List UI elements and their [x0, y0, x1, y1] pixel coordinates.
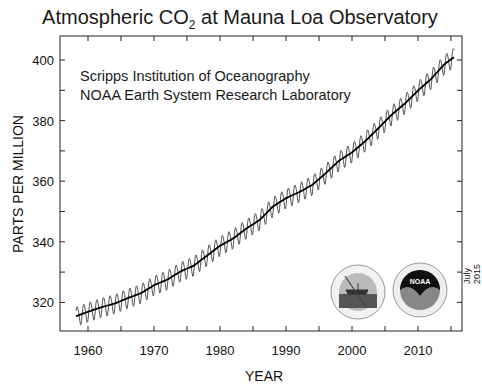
noaa-text: NOAA	[410, 278, 431, 285]
y-tick-label: 400	[32, 53, 54, 68]
x-tick-label: 1990	[272, 343, 301, 358]
x-tick-label: 2000	[338, 343, 367, 358]
date-note: July 2015	[462, 264, 482, 284]
x-axis-label: YEAR	[245, 368, 283, 384]
y-tick-label: 360	[32, 174, 54, 189]
noaa-logo: NOAA	[393, 263, 447, 317]
x-tick-label: 2010	[404, 343, 433, 358]
y-tick-label: 380	[32, 114, 54, 129]
x-tick-label: 1960	[74, 343, 103, 358]
x-tick-label: 1970	[140, 343, 169, 358]
credit-scripps: Scripps Institution of Oceanography	[80, 68, 310, 84]
y-tick-label: 340	[32, 235, 54, 250]
y-axis-label: PARTS PER MILLION	[10, 104, 26, 264]
credit-noaa: NOAA Earth System Research Laboratory	[80, 87, 351, 103]
y-tick-label: 320	[32, 295, 54, 310]
scripps-logo	[331, 265, 385, 319]
x-tick-label: 1980	[206, 343, 235, 358]
